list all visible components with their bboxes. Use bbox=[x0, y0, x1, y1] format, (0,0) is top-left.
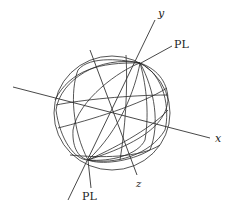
pl-bottom-leader bbox=[88, 160, 91, 188]
x-axis bbox=[13, 87, 210, 138]
sphere-diagram: y x z PL PL bbox=[0, 0, 231, 213]
pl-top-leader bbox=[141, 46, 172, 63]
pl-top-label: PL bbox=[174, 38, 189, 51]
y-axis-label: y bbox=[157, 7, 165, 20]
x-axis-label: x bbox=[215, 132, 222, 145]
z-axis-label: z bbox=[135, 178, 142, 189]
pl-bottom-label: PL bbox=[82, 190, 97, 203]
sphere-curves bbox=[55, 55, 168, 162]
